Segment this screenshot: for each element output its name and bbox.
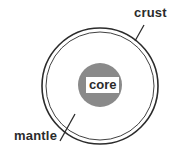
crust-label: crust [134, 5, 167, 20]
crust-leader-line [135, 25, 144, 41]
core-label: core [86, 77, 119, 93]
mantle-label: mantle [14, 128, 57, 143]
